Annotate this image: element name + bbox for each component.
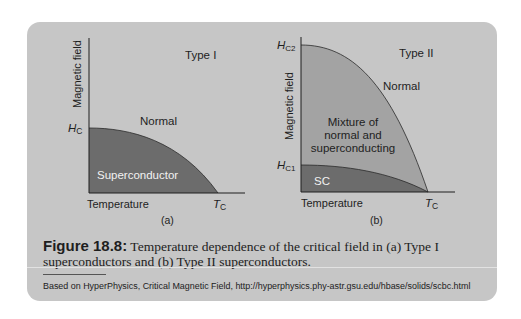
- y-axis-label: Magnetic field: [283, 72, 295, 140]
- type-label: Type II: [399, 47, 434, 59]
- x-axis-label: Temperature: [301, 197, 363, 209]
- figure-number: Figure 18.8:: [43, 237, 127, 254]
- phase-diagrams: Type I Magnetic field Normal Superconduc…: [0, 0, 521, 319]
- mixture-label-line2: normal and: [324, 129, 382, 141]
- superconductor-label: Superconductor: [97, 169, 178, 181]
- mixture-label-line1: Mixture of: [328, 116, 379, 128]
- sublabel-b: (b): [370, 214, 383, 226]
- mixture-label-line3: superconducting: [311, 142, 395, 154]
- caption-separator: [27, 267, 497, 268]
- normal-label: Normal: [140, 115, 177, 127]
- type-i-diagram: Type I Magnetic field Normal Superconduc…: [68, 38, 245, 226]
- tc-label: TC: [213, 198, 226, 212]
- normal-label: Normal: [383, 80, 420, 92]
- sc-label: SC: [314, 175, 330, 187]
- hc2-label: HC2: [277, 39, 296, 53]
- type-label: Type I: [185, 49, 216, 61]
- tc-label: TC: [425, 197, 438, 211]
- y-axis-label: Magnetic field: [71, 40, 83, 108]
- hc1-label: HC1: [277, 159, 296, 173]
- figure-caption: Figure 18.8: Temperature dependence of t…: [43, 238, 483, 269]
- source-credit: Based on HyperPhysics, Critical Magnetic…: [43, 280, 470, 291]
- superconductor-region: [89, 128, 218, 193]
- hc-label: HC: [68, 122, 82, 136]
- sublabel-a: (a): [161, 214, 174, 226]
- type-ii-diagram: Type II Magnetic field Normal Mixture of…: [277, 37, 455, 226]
- x-axis-label: Temperature: [87, 198, 149, 210]
- source-rule: [43, 274, 106, 275]
